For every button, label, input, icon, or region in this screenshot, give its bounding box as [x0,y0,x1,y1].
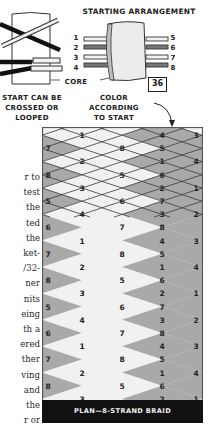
braid-plan-label: PLAN—8-STRAND BRAID [42,400,203,423]
text-line: the [0,200,40,215]
text-line: the [0,231,40,246]
right-caption-line-3: TO START [86,113,142,123]
strand-number: 2 [193,316,198,325]
strand-number: 1 [159,157,164,166]
text-line: and [0,383,40,398]
strand-number: 7 [119,223,124,232]
strand-number: 3 [193,342,198,351]
strand-number: 1 [79,237,84,246]
strand-label-right-8: 8 [169,63,177,73]
strand-number: 1 [193,184,198,193]
crossed-start-sketch [0,10,68,88]
text-line: ner [0,276,40,291]
left-caption-line-3: LOOPED [0,113,64,123]
text-line: th a [0,322,40,337]
strand-number: 2 [79,157,84,166]
strand-number: 5 [119,382,124,391]
strand-label-right-6: 6 [169,43,177,53]
figure-number: 36 [148,77,167,92]
strand-number: 4 [159,131,164,140]
strand-number: 5 [119,171,124,180]
strand-label-left-2: 2 [72,43,80,53]
strand-number: 4 [193,263,198,272]
strand-number: 7 [45,144,50,153]
arrow-icon [150,100,180,130]
strand-number: 5 [45,303,50,312]
strand-number: 7 [45,250,50,259]
left-caption-line-2: CROSSED OR [0,103,64,113]
strand-label-left-3: 3 [72,53,80,63]
strand-label-left-1: 1 [72,33,80,43]
strand-number: 8 [159,223,164,232]
strand-number: 4 [79,210,84,219]
strand-label-right-5: 5 [169,33,177,43]
strand-number: 2 [79,369,84,378]
text-line: ther [0,352,40,367]
strand-number: 4 [159,342,164,351]
strand-number: 7 [119,329,124,338]
strand-number: 7 [45,355,50,364]
strand-number: 6 [159,276,164,285]
strand-number: 3 [193,237,198,246]
strand-number: 4 [79,316,84,325]
strand-number: 1 [159,263,164,272]
strand-number: 2 [193,210,198,219]
strand-number: 5 [119,276,124,285]
strand-number: 6 [159,382,164,391]
strand-number: 2 [159,184,164,193]
right-caption-line-2: ACCORDING [86,103,142,113]
strand-number: 5 [159,250,164,259]
text-line: nits [0,292,40,307]
strand-number: 3 [193,131,198,140]
strand-number: 1 [193,289,198,298]
strand-number: 1 [79,131,84,140]
text-line: the [0,398,40,413]
strand-number: 8 [45,382,50,391]
core-label: CORE [62,77,90,87]
right-caption-line-1: COLOR [86,93,142,103]
strand-number: 3 [159,210,164,219]
text-line: test [0,185,40,200]
strand-number: 7 [159,197,164,206]
text-line: ving [0,368,40,383]
braid-plan-diagram: 1437852148563215674326781437852148563215… [42,127,203,402]
strand-number: 8 [45,171,50,180]
strand-number: 6 [119,197,124,206]
left-caption: START CAN BE CROSSED OR LOOPED [0,93,64,123]
strand-number: 3 [79,289,84,298]
strand-number: 6 [45,329,50,338]
strand-number: 8 [45,276,50,285]
strand-number: 8 [119,355,124,364]
strand-number: 8 [119,144,124,153]
text-line: eing [0,307,40,322]
text-line: r or [0,413,40,428]
text-line: ted [0,216,40,231]
text-line: ered [0,337,40,352]
strand-number: 4 [193,369,198,378]
strand-number: 3 [159,316,164,325]
strand-number: 3 [79,184,84,193]
strand-number: 1 [159,369,164,378]
text-line: r to [0,170,40,185]
starting-arrangement-sketch [76,18,178,86]
body-text-column: r to test the ted the ket- /32- ner nits… [0,170,40,428]
strand-number: 4 [193,157,198,166]
strand-label-left-4: 4 [72,63,80,73]
strand-number: 4 [159,237,164,246]
strand-number: 2 [159,289,164,298]
strand-number: 5 [45,197,50,206]
strand-number: 5 [159,355,164,364]
strand-label-right-7: 7 [169,53,177,63]
strand-number: 2 [79,263,84,272]
text-line: /32- [0,261,40,276]
strand-number: 7 [159,303,164,312]
right-caption: COLOR ACCORDING TO START [86,93,142,123]
starting-arrangement-title: STARTING ARRANGEMENT [74,7,204,17]
strand-number: 1 [79,342,84,351]
strand-number: 5 [159,144,164,153]
strand-number: 8 [159,329,164,338]
left-caption-line-1: START CAN BE [0,93,64,103]
text-line: ket- [0,246,40,261]
strand-number: 6 [45,223,50,232]
strand-number: 6 [119,303,124,312]
